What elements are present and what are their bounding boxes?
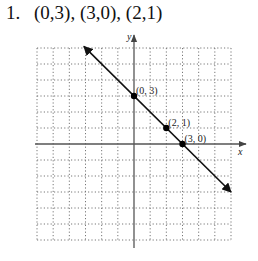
coordinate-plane-chart: xy (0, 3)(2, 1)(3, 0)	[0, 0, 258, 261]
plotted-line	[84, 46, 231, 192]
y-axis-label: y	[126, 31, 132, 42]
x-axis-label: x	[237, 146, 243, 157]
point-label: (0, 3)	[136, 85, 158, 97]
point-label: (3, 0)	[185, 133, 207, 145]
line-y-equals-neg-x-plus-3	[84, 46, 231, 192]
point-label: (2, 1)	[168, 117, 190, 129]
plotted-points: (0, 3)(2, 1)(3, 0)	[131, 85, 206, 147]
